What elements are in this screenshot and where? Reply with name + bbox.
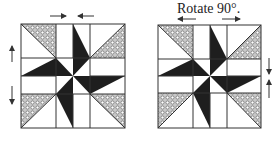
blade-bottom — [193, 76, 210, 128]
blade-bottom — [56, 76, 73, 128]
blade-top — [210, 25, 227, 76]
right-quilt-block-rotated — [158, 19, 269, 128]
blade-left — [21, 58, 73, 76]
left-quilt-block — [12, 16, 125, 128]
blade-top — [73, 24, 90, 76]
blade-right — [73, 76, 125, 94]
blade-right — [210, 76, 261, 93]
blade-left — [158, 59, 210, 76]
quilt-diagram — [0, 0, 279, 144]
